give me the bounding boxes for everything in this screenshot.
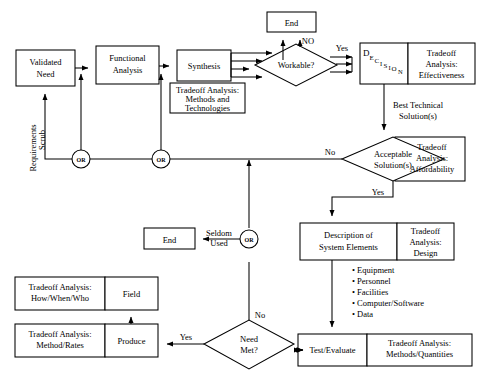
label-synthesis: Synthesis [188,61,221,71]
label-ta-effectiveness-line2: Analysis: [425,59,457,69]
svg-text:I: I [389,64,391,71]
label-ta-method-rates-line1: Tradeoff Analysis: [28,329,91,339]
label-edge-no-up: NO [302,36,314,46]
label-desc-sys-line1: Description of [324,230,373,240]
label-edge-yes-need-met: Yes [180,332,192,342]
label-ta-methods-line3: Technologies [185,103,230,113]
label-ta-methods-qty-line1: Tradeoff Analysis: [388,338,451,348]
label-seldom-line2: Used [210,238,228,248]
label-ta-affordability-line2: Analysis: [416,153,448,163]
label-edge-yes-acceptable: Yes [372,187,384,197]
bullet-item-3: • Computer/Software [352,298,424,308]
edge-or1-to-requirements-scrub [45,94,72,159]
label-validated-need-line2: Need [37,69,56,79]
label-workable: Workable? [278,60,315,70]
label-ta-design-line2: Analysis: [409,237,441,247]
label-ta-effectiveness-line1: Tradeoff [427,48,456,58]
label-or-gate-right: OR [157,157,167,163]
svg-text:N: N [398,68,403,75]
bullet-item-2: • Facilities [352,287,388,297]
label-end-middle: End [163,235,177,245]
label-field: Field [123,289,141,299]
label-ta-how-when-who-line1: Tradeoff Analysis: [28,282,91,292]
flowchart-svg: Validated Need Functional Analysis Synth… [0,0,487,387]
node-validated-need [16,50,75,86]
label-need-met-line1: Need [240,334,259,344]
label-produce: Produce [118,336,146,346]
label-validated-need-line1: Validated [29,57,62,67]
bullet-item-0: • Equipment [352,265,395,275]
label-end-top: End [285,18,299,28]
label-functional-analysis-line2: Analysis [113,65,143,75]
label-ta-affordability-line1: Tradeoff [417,142,446,152]
label-ta-design-line3: Design [413,248,438,258]
label-edge-no-need-met: No [255,310,265,320]
label-ta-method-rates-line2: Method/Rates [36,340,84,350]
label-test-evaluate: Test/Evaluate [309,345,355,355]
label-acceptable-line2: Solution(s) [374,160,412,170]
label-ta-how-when-who-line2: How/When/Who [31,293,89,303]
flowchart-canvas: Validated Need Functional Analysis Synth… [0,0,487,387]
label-desc-sys-line2: System Elements [319,242,378,252]
label-seldom-line1: Seldom [206,228,232,238]
label-best-technical-line2: Solution(s) [399,111,437,121]
label-edge-yes-workable: Yes [336,43,348,53]
bullet-item-4: • Data [352,309,373,319]
label-or-gate-middle: OR [245,237,255,243]
label-functional-analysis-line1: Functional [109,53,146,63]
svg-text:C: C [375,57,380,65]
svg-text:O: O [392,65,397,73]
label-requirements-scrub-line2: Scrub [37,130,47,150]
label-best-technical-line1: Best Technical [393,100,444,110]
label-ta-affordability-line3: Affordability [410,164,455,174]
label-or-gate-left: OR [77,157,87,163]
svg-text:E: E [370,54,374,62]
label-acceptable-line1: Acceptable [374,149,412,159]
bullet-item-1: • Personnel [352,276,391,286]
svg-text:I: I [380,60,382,67]
label-ta-methods-qty-line2: Methods/Quantities [386,349,453,359]
label-need-met-line2: Met? [240,345,258,355]
label-edge-no-acceptable: No [325,147,335,157]
label-ta-design-line1: Tradeoff [411,226,440,236]
label-ta-effectiveness-line3: Effectiveness [419,70,465,80]
svg-text:S: S [384,62,388,70]
